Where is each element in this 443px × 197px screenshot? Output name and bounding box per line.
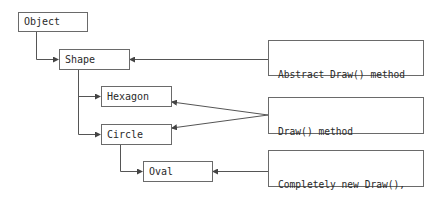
class-label: Shape: [65, 54, 95, 66]
note-line: Abstract Draw() method: [278, 69, 423, 81]
class-box-circle: Circle: [101, 124, 172, 145]
note-line: Completely new Draw(),: [278, 179, 423, 191]
class-box-hexagon: Hexagon: [101, 86, 172, 107]
class-box-object: Object: [18, 12, 88, 32]
note-line: Draw() method: [278, 126, 423, 138]
note-abstract-draw: Abstract Draw() method defined here: [268, 40, 424, 76]
class-label: Oval: [149, 166, 173, 178]
note-new-draw: Completely new Draw(), hiding Circle.Dra…: [268, 150, 424, 187]
class-box-oval: Oval: [143, 161, 213, 182]
class-box-shape: Shape: [59, 49, 130, 70]
note-draw-implemented: Draw() method implemented here and here: [268, 97, 424, 134]
class-label: Circle: [107, 129, 143, 141]
class-label: Object: [24, 16, 60, 28]
class-label: Hexagon: [107, 91, 149, 103]
